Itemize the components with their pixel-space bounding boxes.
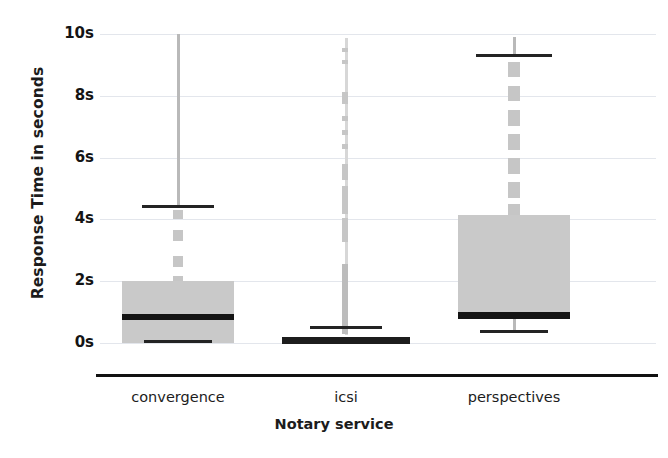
boxplot-figure: Response Time in seconds 10s 8s 6s 4s 2s…	[0, 0, 668, 458]
x-axis-label: Notary service	[0, 416, 668, 432]
convergence-upper-cap	[142, 205, 214, 208]
perspectives-upper-cap	[476, 54, 552, 57]
convergence-flier	[173, 230, 183, 241]
icsi-flier	[342, 48, 348, 52]
convergence-median	[122, 314, 234, 320]
y-tick-0s: 0s	[34, 335, 94, 350]
convergence-box-body	[122, 281, 234, 343]
perspectives-flier	[508, 134, 520, 150]
box-perspectives[interactable]	[458, 34, 570, 343]
box-icsi[interactable]	[290, 34, 402, 343]
perspectives-median	[458, 312, 570, 319]
icsi-flier	[342, 218, 348, 242]
perspectives-box-body	[458, 215, 570, 319]
icsi-flier	[342, 116, 348, 121]
plot-area	[100, 34, 656, 343]
perspectives-flier	[508, 62, 520, 77]
convergence-flier	[173, 256, 183, 267]
perspectives-lower-cap	[480, 330, 548, 333]
x-tick-perspectives: perspectives	[458, 389, 570, 405]
perspectives-flier	[508, 86, 520, 101]
x-tick-convergence: convergence	[122, 389, 234, 405]
y-axis-ticks: 10s 8s 6s 4s 2s 0s	[28, 0, 94, 458]
icsi-flier	[342, 92, 348, 104]
icsi-flier	[342, 264, 348, 334]
x-axis-spine	[96, 374, 658, 377]
perspectives-flier	[508, 182, 520, 198]
perspectives-flier	[508, 110, 520, 126]
convergence-outlier-stem	[177, 34, 180, 206]
y-tick-10s: 10s	[34, 26, 94, 41]
y-tick-4s: 4s	[34, 211, 94, 226]
perspectives-flier	[508, 158, 520, 174]
icsi-upper-cap	[310, 326, 382, 329]
y-tick-8s: 8s	[34, 88, 94, 103]
y-tick-2s: 2s	[34, 273, 94, 288]
perspectives-upper-stem	[513, 37, 516, 55]
icsi-flier	[342, 186, 348, 214]
y-tick-6s: 6s	[34, 150, 94, 165]
icsi-lower-cap	[282, 337, 410, 344]
box-convergence[interactable]	[122, 34, 234, 343]
icsi-flier	[342, 144, 348, 149]
icsi-flier	[342, 60, 348, 64]
icsi-flier	[342, 130, 348, 135]
x-tick-icsi: icsi	[290, 389, 402, 405]
convergence-lower-cap	[144, 340, 212, 343]
icsi-flier	[342, 164, 348, 180]
convergence-flier	[173, 210, 183, 219]
